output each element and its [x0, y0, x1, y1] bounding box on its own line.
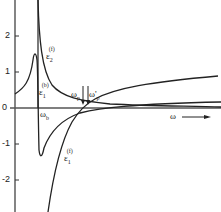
y-tick-label-m2: -2	[2, 175, 10, 184]
dielectric-function-plot	[0, 0, 221, 212]
label-eps2-f: ε2(f)	[46, 50, 59, 63]
omega-direction-arrowhead	[204, 115, 211, 119]
label-eps1-b: ε1(b)	[39, 86, 53, 99]
label-omega-p-prime: ω'p	[89, 90, 100, 101]
y-tick-label-m1: -1	[2, 139, 10, 148]
label-eps1-f: ε1(f)	[64, 152, 77, 165]
omega-p-arrowhead	[81, 100, 85, 105]
curve-eps2-f	[38, 0, 221, 107]
y-tick-label-0: 0	[2, 103, 7, 112]
y-tick-label-1: 1	[5, 67, 10, 76]
y-tick-label-2: 2	[5, 31, 10, 40]
x-axis-label: ω	[170, 112, 176, 121]
label-omega-p: ωp	[71, 90, 80, 101]
label-omega-b: ωb	[40, 110, 49, 121]
